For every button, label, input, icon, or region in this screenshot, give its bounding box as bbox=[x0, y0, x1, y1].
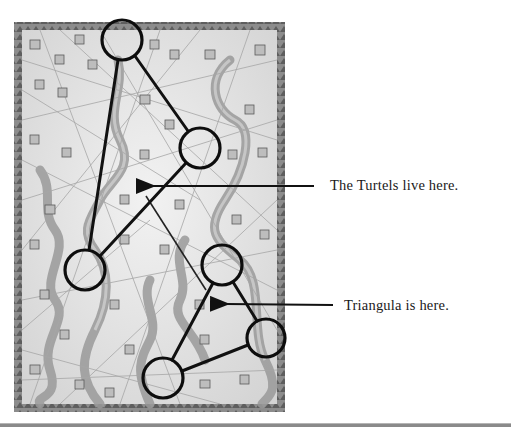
map-image bbox=[14, 22, 285, 412]
page-divider bbox=[0, 423, 511, 427]
caption-turtels: The Turtels live here. bbox=[330, 177, 458, 194]
caption-triangula: Triangula is here. bbox=[344, 297, 449, 314]
map-figure bbox=[0, 0, 511, 430]
arrow-triangula bbox=[226, 304, 333, 305]
